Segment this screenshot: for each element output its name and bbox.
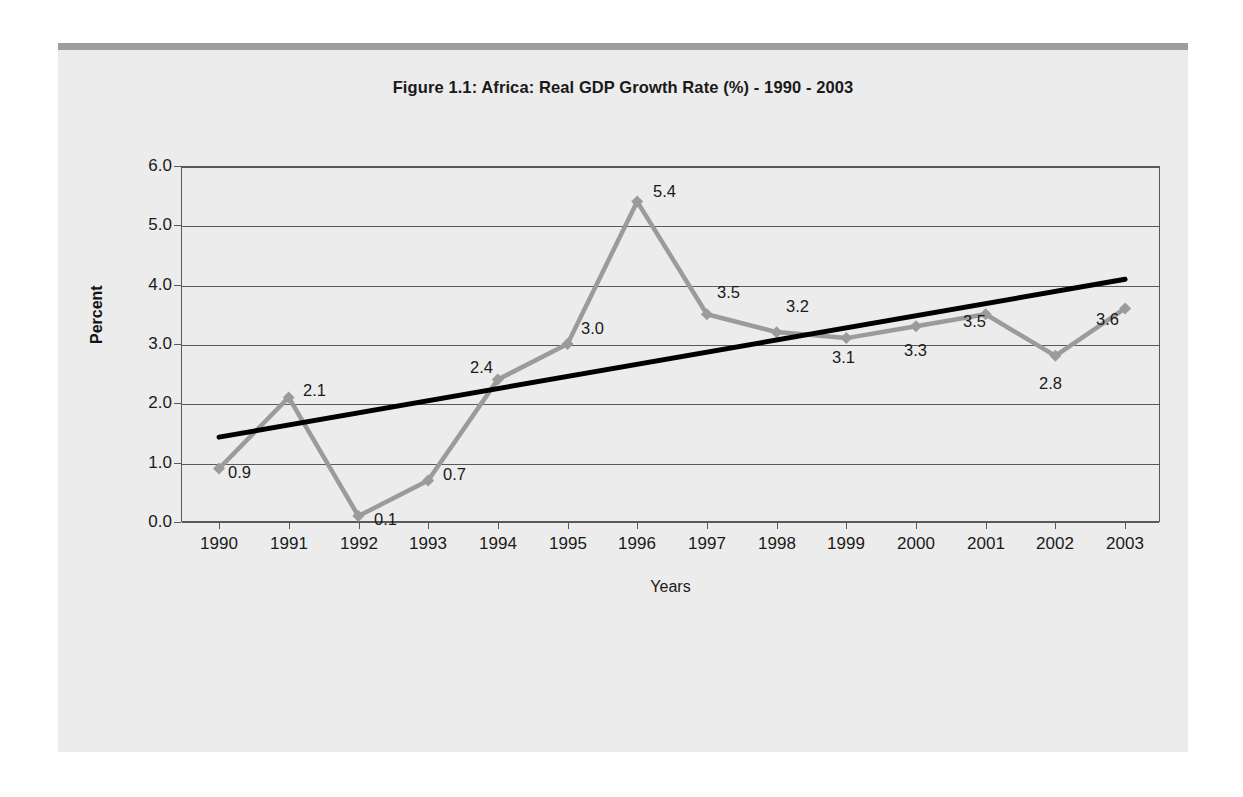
x-tick-mark-3	[428, 522, 429, 529]
y-tick-mark-4	[174, 285, 181, 286]
x-tick-mark-5	[568, 522, 569, 529]
gridline-3	[182, 345, 1159, 346]
data-label-2000: 3.3	[904, 341, 927, 360]
x-tick-label-1996: 1996	[602, 534, 672, 554]
x-tick-label-2002: 2002	[1020, 534, 1090, 554]
data-label-1992: 0.1	[374, 510, 397, 529]
y-tick-label-0: 0.0	[112, 512, 172, 532]
data-label-2002: 2.8	[1039, 374, 1062, 393]
x-tick-label-1998: 1998	[742, 534, 812, 554]
y-tick-label-4: 4.0	[112, 275, 172, 295]
y-tick-label-2: 2.0	[112, 393, 172, 413]
x-tick-mark-6	[637, 522, 638, 529]
data-label-1999: 3.1	[832, 348, 855, 367]
gridline-2	[182, 404, 1159, 405]
page-top-rule	[58, 43, 1188, 50]
x-tick-mark-13	[1125, 522, 1126, 529]
x-tick-label-1999: 1999	[811, 534, 881, 554]
y-tick-mark-2	[174, 403, 181, 404]
chart-title: Figure 1.1: Africa: Real GDP Growth Rate…	[58, 78, 1188, 97]
gridline-4	[182, 286, 1159, 287]
data-label-2001: 3.5	[963, 312, 986, 331]
x-tick-label-2001: 2001	[951, 534, 1021, 554]
y-tick-mark-3	[174, 344, 181, 345]
data-label-1993: 0.7	[443, 465, 466, 484]
x-tick-label-1994: 1994	[463, 534, 533, 554]
x-tick-label-1991: 1991	[254, 534, 324, 554]
x-tick-mark-0	[219, 522, 220, 529]
x-tick-mark-9	[846, 522, 847, 529]
y-axis-title: Percent	[88, 285, 106, 344]
y-tick-label-6: 6.0	[112, 156, 172, 176]
data-label-1994: 2.4	[470, 358, 493, 377]
gridline-0	[182, 522, 1159, 523]
y-tick-label-3: 3.0	[112, 334, 172, 354]
x-tick-label-1990: 1990	[184, 534, 254, 554]
data-label-2003: 3.6	[1096, 310, 1119, 329]
y-tick-mark-6	[174, 166, 181, 167]
gridline-6	[182, 167, 1159, 168]
x-tick-mark-2	[359, 522, 360, 529]
data-label-1990: 0.9	[228, 463, 251, 482]
x-tick-mark-1	[289, 522, 290, 529]
scanned-page: Figure 1.1: Africa: Real GDP Growth Rate…	[0, 0, 1243, 797]
x-tick-label-2003: 2003	[1090, 534, 1160, 554]
data-label-1991: 2.1	[303, 381, 326, 400]
data-label-1995: 3.0	[581, 319, 604, 338]
x-tick-mark-10	[916, 522, 917, 529]
y-tick-mark-0	[174, 522, 181, 523]
x-tick-mark-8	[777, 522, 778, 529]
x-axis-title: Years	[181, 578, 1160, 596]
x-tick-label-1993: 1993	[393, 534, 463, 554]
x-tick-label-1997: 1997	[672, 534, 742, 554]
y-tick-label-1: 1.0	[112, 453, 172, 473]
y-tick-mark-1	[174, 463, 181, 464]
x-tick-mark-12	[1055, 522, 1056, 529]
gridline-1	[182, 464, 1159, 465]
data-label-1997: 3.5	[717, 283, 740, 302]
data-label-1998: 3.2	[786, 297, 809, 316]
gridline-5	[182, 226, 1159, 227]
plot-area	[181, 166, 1160, 522]
x-tick-label-2000: 2000	[881, 534, 951, 554]
x-tick-label-1992: 1992	[324, 534, 394, 554]
y-tick-label-5: 5.0	[112, 215, 172, 235]
x-tick-label-1995: 1995	[533, 534, 603, 554]
data-label-1996: 5.4	[653, 182, 676, 201]
x-tick-mark-7	[707, 522, 708, 529]
x-tick-mark-4	[498, 522, 499, 529]
x-tick-mark-11	[986, 522, 987, 529]
y-tick-mark-5	[174, 225, 181, 226]
